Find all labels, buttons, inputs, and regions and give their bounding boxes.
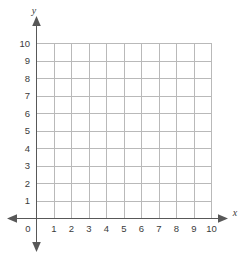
- x-tick-label-1: 1: [51, 223, 56, 234]
- x-axis: [7, 214, 228, 223]
- y-tick-label-9: 9: [25, 55, 30, 66]
- x-tick-label-2: 2: [69, 223, 74, 234]
- y-tick-label-1: 1: [25, 195, 30, 206]
- y-tick-label-2: 2: [25, 178, 30, 189]
- y-axis-tick-labels: 10 9 8 7 6 5 4 3 2 1: [19, 38, 30, 207]
- coordinate-grid-figure: 10 9 8 7 6 5 4 3 2 1 1 2 3 4 5 6 7 8 9 1…: [0, 0, 245, 263]
- y-tick-label-8: 8: [25, 73, 30, 84]
- y-axis-arrow-up: [32, 16, 41, 26]
- y-tick-label-3: 3: [25, 160, 30, 171]
- y-tick-label-5: 5: [25, 125, 30, 136]
- y-axis-name-label: y: [31, 5, 37, 16]
- y-tick-label-10: 10: [19, 38, 30, 49]
- y-axis-arrow-down: [32, 242, 41, 252]
- x-tick-label-8: 8: [174, 223, 179, 234]
- x-axis-tick-labels: 1 2 3 4 5 6 7 8 9 10: [51, 223, 216, 234]
- x-tick-label-10: 10: [206, 223, 217, 234]
- x-tick-label-7: 7: [156, 223, 161, 234]
- x-axis-arrow-right: [218, 214, 228, 223]
- x-tick-label-6: 6: [139, 223, 144, 234]
- x-tick-label-4: 4: [104, 223, 109, 234]
- y-tick-label-6: 6: [25, 108, 30, 119]
- origin-label: 0: [25, 223, 30, 234]
- y-tick-label-7: 7: [25, 90, 30, 101]
- x-axis-name-label: x: [232, 207, 238, 218]
- y-axis: [32, 16, 41, 252]
- x-tick-label-9: 9: [191, 223, 196, 234]
- x-axis-arrow-left: [7, 214, 17, 223]
- x-tick-label-3: 3: [86, 223, 91, 234]
- coordinate-plane: 10 9 8 7 6 5 4 3 2 1 1 2 3 4 5 6 7 8 9 1…: [0, 0, 245, 263]
- y-tick-label-4: 4: [25, 143, 30, 154]
- x-tick-label-5: 5: [121, 223, 126, 234]
